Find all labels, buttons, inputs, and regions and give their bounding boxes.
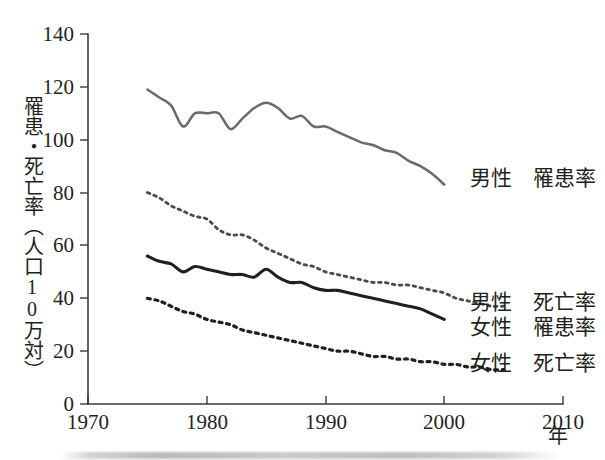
- x-tick-label-1990: 1990: [286, 412, 366, 433]
- chart-figure: 罹患・死亡率（人口10万対） 140 120 100 80 60 40 20 0…: [0, 0, 605, 460]
- y-tick-label-100: 100: [18, 130, 74, 151]
- legend-label-male-incidence: 男性 罹患率: [470, 168, 596, 189]
- series-line-male-mortality: [147, 256, 444, 319]
- x-axis-ticks: [88, 396, 563, 404]
- x-tick-label-1970: 1970: [48, 412, 128, 433]
- y-tick-label-120: 120: [18, 77, 74, 98]
- x-axis-title: 年: [548, 426, 568, 446]
- series-line-male-incidence: [147, 90, 444, 185]
- y-tick-label-40: 40: [18, 288, 74, 309]
- chart-plot-area: [0, 0, 605, 460]
- y-tick-label-140: 140: [18, 24, 74, 45]
- legend-label-female-mortality: 女性 死亡率: [470, 353, 596, 374]
- y-tick-label-80: 80: [18, 183, 74, 204]
- y-axis-ticks: [80, 34, 88, 404]
- x-tick-label-1980: 1980: [167, 412, 247, 433]
- y-tick-label-20: 20: [18, 341, 74, 362]
- series-group: [147, 90, 503, 370]
- page-edge-artifact: [60, 452, 560, 459]
- series-line-female-mortality: [147, 298, 503, 370]
- legend-label-male-mortality: 男性 死亡率: [470, 292, 596, 313]
- x-tick-label-2000: 2000: [404, 412, 484, 433]
- legend-label-female-incidence: 女性 罹患率: [470, 317, 596, 338]
- y-tick-label-60: 60: [18, 235, 74, 256]
